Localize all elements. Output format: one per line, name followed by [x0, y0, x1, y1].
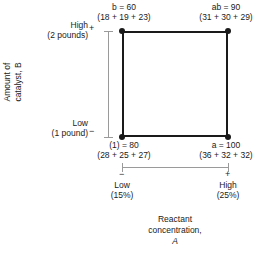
level-sign-a-high: +: [225, 170, 230, 179]
point-replicates-b: (18 + 19 + 23): [78, 12, 170, 23]
factorial-design-figure: b = 60 (18 + 19 + 23) ab = 90 (31 + 30 +…: [0, 0, 265, 258]
point-label-ab: ab = 90: [180, 2, 265, 13]
y-axis-title-line1: Amount of: [2, 32, 13, 132]
vertical-axis-line: [108, 31, 109, 138]
y-axis-title-line2: catalyst, B: [13, 32, 24, 132]
level-sign-b-low: −: [89, 127, 94, 136]
level-label-a-high-value: (25%): [200, 190, 256, 201]
point-label-b: b = 60: [78, 2, 170, 13]
design-point-b: [119, 28, 125, 34]
design-square: [122, 31, 228, 137]
horizontal-axis-line: [122, 167, 229, 168]
level-label-b-high-name: High: [10, 20, 88, 31]
x-axis-title-line2: concentration,: [115, 225, 235, 236]
design-point-ab: [225, 28, 231, 34]
level-label-a-low-value: (15%): [94, 190, 150, 201]
y-axis-title: Amount of catalyst, B: [2, 32, 26, 132]
point-replicates-1: (28 + 25 + 27): [78, 150, 170, 161]
point-label-a: a = 100: [180, 140, 265, 151]
level-label-a-low-name: Low: [94, 180, 150, 191]
vertical-axis-cap-top: [104, 31, 113, 32]
point-replicates-a: (36 + 32 + 32): [180, 150, 265, 161]
level-sign-b-high: +: [89, 24, 94, 33]
x-axis-title-factor: A: [115, 236, 235, 247]
vertical-axis-cap-bottom: [104, 137, 113, 138]
point-replicates-ab: (31 + 30 + 29): [180, 12, 265, 23]
level-label-a-high-name: High: [200, 180, 256, 191]
x-axis-title-line1: Reactant: [115, 214, 235, 225]
level-sign-a-low: −: [119, 170, 124, 179]
point-label-1: (1) = 80: [78, 140, 170, 151]
x-axis-title: Reactant concentration, A: [115, 214, 235, 247]
